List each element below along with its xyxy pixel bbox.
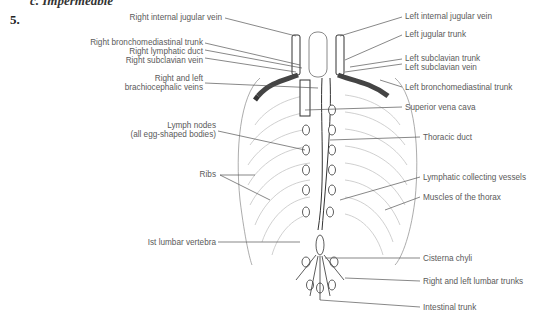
label-right-bronchomediastinal-trunk: Right bronchomediastinal trunk — [90, 38, 203, 47]
label-left-subclavian-vein: Left subclavian vein — [405, 63, 477, 72]
label-lymph-nodes-line2: (all egg-shaped bodies) — [130, 130, 216, 139]
label-intestinal-trunk: Intestinal trunk — [423, 303, 476, 312]
label-lymphatic-collecting-vessels: Lymphatic collecting vessels — [423, 173, 526, 182]
label-left-internal-jugular-vein: Left internal jugular vein — [405, 12, 492, 21]
label-brachiocephalic-veins-line1: Right and left — [155, 74, 203, 83]
label-left-bronchomediastinal-trunk: Left bronchomediastinal trunk — [405, 83, 512, 92]
label-right-subclavian-vein: Right subclavian vein — [126, 56, 203, 65]
label-thoracic-duct: Thoracic duct — [423, 133, 472, 142]
label-lymph-nodes-line1: Lymph nodes — [167, 121, 216, 130]
label-brachiocephalic-veins-line2: brachiocephalic veins — [125, 83, 203, 92]
thorax-lymphatic-diagram — [0, 0, 536, 318]
label-ribs: Ribs — [200, 170, 216, 179]
label-superior-vena-cava: Superior vena cava — [405, 103, 476, 112]
label-muscles-of-thorax: Muscles of the thorax — [423, 193, 501, 202]
label-left-jugular-trunk: Left jugular trunk — [405, 30, 466, 39]
label-cisterna-chyli: Cisterna chyli — [423, 254, 472, 263]
label-right-internal-jugular-vein: Right internal jugular vein — [130, 13, 222, 22]
label-lumbar-trunks: Right and left lumbar trunks — [423, 277, 523, 286]
label-first-lumbar-vertebra: Ist lumbar vertebra — [148, 238, 216, 247]
label-left-subclavian-trunk: Left subclavian trunk — [405, 54, 480, 63]
label-right-lymphatic-duct: Right lymphatic duct — [129, 47, 203, 56]
